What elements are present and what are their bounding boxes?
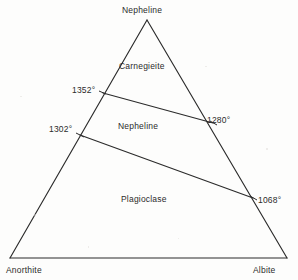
- triangle-edge-left: [10, 20, 147, 258]
- scan-speckle: [205, 66, 207, 67]
- ternary-phase-diagram-figure: Nepheline Anorthite Albite Carnegieite N…: [0, 0, 298, 280]
- phase-field-label-carnegieite: Carnegieite: [119, 62, 165, 71]
- phase-field-label-nepheline: Nepheline: [118, 122, 158, 131]
- diagram-canvas: [0, 0, 298, 280]
- temperature-label-1280: 1280°: [207, 116, 230, 125]
- vertex-label-anorthite: Anorthite: [6, 266, 42, 275]
- scan-speckle: [20, 96, 22, 97]
- vertex-label-albite: Albite: [253, 266, 275, 275]
- temperature-label-1302: 1302°: [49, 125, 72, 134]
- scan-speckle: [88, 246, 89, 248]
- triangle-edge-right: [147, 20, 287, 258]
- phase-field-label-plagioclase: Plagioclase: [121, 195, 167, 204]
- boundary-carnegieite-nepheline: [103, 93, 213, 123]
- scan-speckle: [266, 148, 268, 150]
- boundary-nepheline-plagioclase: [80, 135, 253, 198]
- vertex-label-nepheline: Nepheline: [122, 6, 162, 15]
- scan-speckle: [178, 238, 179, 239]
- temperature-label-1068: 1068°: [258, 196, 281, 205]
- temperature-label-1352: 1352°: [72, 86, 95, 95]
- scan-speckle: [34, 214, 36, 216]
